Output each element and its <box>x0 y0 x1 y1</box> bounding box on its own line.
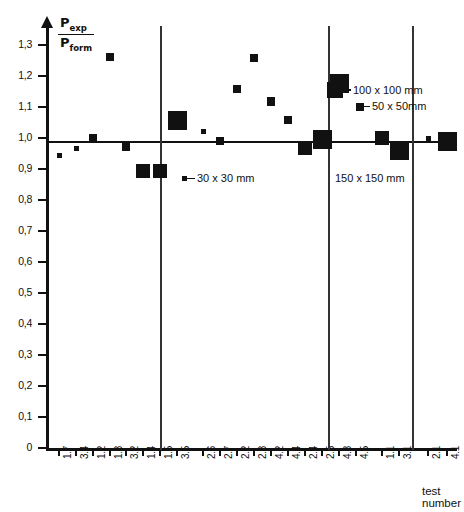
data-point-marker <box>284 116 293 125</box>
data-point-marker <box>267 97 276 106</box>
data-point-marker <box>233 85 242 94</box>
legend-marker-100x100-icon <box>327 82 343 98</box>
x-axis-tick-label: 1.3 <box>114 446 124 459</box>
x-axis-tick-label: 4.2 <box>275 446 285 459</box>
x-axis-tick <box>304 448 306 456</box>
data-point-marker <box>153 164 167 178</box>
y-axis-title-numerator: P <box>60 15 70 30</box>
x-axis-title-line1: test <box>422 485 461 497</box>
data-point-marker <box>216 137 225 146</box>
y-axis-tick-label: 0,5 <box>8 287 32 297</box>
y-axis-tick <box>38 323 47 325</box>
x-axis-tick <box>125 448 127 456</box>
data-point-marker <box>74 146 79 151</box>
y-axis-tick <box>38 354 47 356</box>
data-point-marker <box>106 53 115 62</box>
x-axis-tick <box>287 448 289 456</box>
legend-150x150: 150 x 150 mm <box>333 172 405 185</box>
y-axis-tick <box>38 230 47 232</box>
y-axis-tick <box>38 137 47 139</box>
y-axis-title: Pexp Pform <box>58 16 94 52</box>
y-axis-tick-label: 0,1 <box>8 411 32 421</box>
x-axis-tick <box>92 448 94 456</box>
data-point-marker <box>89 134 98 143</box>
y-axis-tick-label: 0,8 <box>8 194 32 204</box>
legend-100x100: 100 x 100 mm <box>327 82 423 98</box>
y-axis-tick-label: 0 <box>8 442 32 452</box>
data-point-marker <box>313 130 332 149</box>
y-axis-tick <box>38 75 47 77</box>
x-axis-tick-label: 4.3 <box>343 446 353 459</box>
data-point-marker <box>390 141 409 160</box>
x-axis-tick-label: 4.4 <box>292 446 302 459</box>
x-axis-tick <box>427 448 429 456</box>
y-axis-tick-label: 0,9 <box>8 163 32 173</box>
x-axis-tick <box>236 448 238 456</box>
x-axis-tick-label: 1.7 <box>63 446 73 459</box>
x-axis-tick-label: 3.4 <box>80 446 90 459</box>
x-axis-tick <box>338 448 340 456</box>
x-axis-tick-label: 3.5 <box>181 446 191 459</box>
y-axis-tick <box>38 168 47 170</box>
legend-label-30x30: 30 x 30 mm <box>197 172 254 185</box>
x-axis-tick <box>109 448 111 456</box>
legend-leader-line <box>364 106 370 108</box>
y-axis-tick <box>38 199 47 201</box>
x-axis-tick-label: 1.1 <box>386 446 396 459</box>
group-separator-line <box>160 26 162 450</box>
x-axis-tick <box>142 448 144 456</box>
y-axis-tick-label: 1,3 <box>8 39 32 49</box>
x-axis-tick <box>446 448 448 456</box>
data-point-marker <box>438 132 457 151</box>
y-axis-tick <box>38 292 47 294</box>
y-axis-tick-label: 1,2 <box>8 70 32 80</box>
x-axis-tick <box>202 448 204 456</box>
x-axis-title-line2: number <box>422 497 461 509</box>
y-axis-tick-label: 0,6 <box>8 256 32 266</box>
y-axis-tick <box>38 44 47 46</box>
x-axis-tick-label: 3.2 <box>130 446 140 459</box>
data-point-marker <box>122 142 131 151</box>
y-axis-tick <box>38 261 47 263</box>
x-axis-title: test number <box>422 485 461 509</box>
y-axis-title-denominator: P <box>60 35 70 50</box>
y-axis-title-denominator-sub: form <box>70 42 93 52</box>
x-axis-tick-label: 1.4 <box>147 446 157 459</box>
data-point-marker <box>375 131 389 145</box>
x-axis-tick <box>219 448 221 456</box>
x-axis-tick <box>75 448 77 456</box>
x-axis-tick <box>270 448 272 456</box>
data-point-marker <box>57 153 62 158</box>
y-axis-tick <box>38 416 47 418</box>
x-axis-tick <box>381 448 383 456</box>
chart-canvas: Pexp Pform 00,10,20,30,40,50,60,70,80,91… <box>0 0 464 512</box>
legend-label-150x150: 150 x 150 mm <box>335 172 405 184</box>
y-axis-tick <box>38 385 47 387</box>
legend-leader-line <box>187 178 195 180</box>
y-axis-title-numerator-sub: exp <box>70 23 87 33</box>
x-axis-tick-label: 2.6 <box>207 446 217 459</box>
data-point-marker <box>136 164 150 178</box>
legend-50x50: 50 x 50mm <box>356 100 426 113</box>
x-axis-tick-label: 2.7 <box>224 446 234 459</box>
x-axis-tick <box>355 448 357 456</box>
x-axis-tick-label: 2.2 <box>241 446 251 459</box>
x-axis-tick <box>253 448 255 456</box>
x-axis-tick <box>176 448 178 456</box>
x-axis-tick <box>398 448 400 456</box>
legend-30x30: 30 x 30 mm <box>182 172 254 185</box>
y-axis-tick-label: 1,1 <box>8 101 32 111</box>
data-point-marker <box>168 111 187 130</box>
y-axis-tick-label: 0,7 <box>8 225 32 235</box>
x-axis-tick <box>321 448 323 456</box>
x-axis-tick-label: 1.5 <box>164 446 174 459</box>
data-point-marker <box>426 136 431 141</box>
x-axis-tick-label: 2.1 <box>432 446 442 459</box>
data-point-marker <box>201 129 206 134</box>
legend-label-50x50: 50 x 50mm <box>372 100 426 113</box>
data-point-marker <box>298 141 312 155</box>
y-axis-tick <box>38 106 47 108</box>
legend-label-100x100: 100 x 100 mm <box>353 84 423 97</box>
legend-leader-line <box>343 89 351 91</box>
data-point-marker <box>250 54 259 63</box>
